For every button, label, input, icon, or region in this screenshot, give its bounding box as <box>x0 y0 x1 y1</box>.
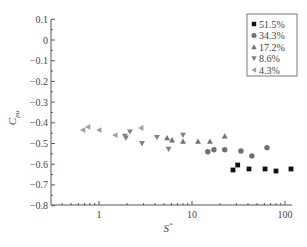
data-point-triangle-down <box>166 147 172 152</box>
data-point-triangle-up <box>169 137 175 142</box>
data-point-square <box>247 167 252 172</box>
data-point-triangle-up <box>222 133 228 138</box>
data-point-circle <box>238 148 243 153</box>
data-point-triangle-down <box>127 130 133 135</box>
y-tick-label: 0.1 <box>36 14 49 25</box>
x-tick-label: 10 <box>187 209 197 220</box>
y-tick-label: −0.2 <box>30 76 48 87</box>
data-point-triangle-down <box>180 133 186 138</box>
data-point-triangle-up <box>164 135 170 140</box>
data-point-circle <box>222 147 227 152</box>
x-tick-label: 1 <box>97 209 102 220</box>
x-tick-label: 100 <box>278 209 293 220</box>
data-point-triangle-left <box>85 124 90 130</box>
data-point-triangle-up <box>180 139 186 144</box>
legend-label: 51.5% <box>259 19 285 30</box>
data-point-circle <box>249 153 254 158</box>
y-tick-label: −0.3 <box>30 97 48 108</box>
legend-marker-circle <box>252 33 257 38</box>
legend-label: 8.6% <box>259 53 280 64</box>
y-tick-label: −0.6 <box>30 159 48 170</box>
data-point-square <box>231 168 236 173</box>
y-tick-label: −0.4 <box>30 117 48 128</box>
data-point-square <box>263 167 268 172</box>
data-point-triangle-down <box>154 135 160 140</box>
y-tick-label: −0.8 <box>30 200 48 211</box>
legend-marker-square <box>252 22 256 26</box>
y-tick-label: −0.7 <box>30 179 48 190</box>
data-point-triangle-down <box>123 136 129 141</box>
legend-label: 4.3% <box>259 65 280 76</box>
data-points <box>80 124 293 173</box>
data-point-triangle-left <box>112 132 117 138</box>
data-point-triangle-left <box>96 127 101 133</box>
data-point-circle <box>205 149 210 154</box>
data-point-square <box>289 167 294 172</box>
x-axis-title: S* <box>164 221 174 234</box>
data-point-circle <box>264 145 269 150</box>
legend-label: 34.3% <box>259 30 285 41</box>
data-point-square <box>274 169 279 174</box>
data-point-circle <box>211 147 216 152</box>
legend-label: 17.2% <box>259 42 285 53</box>
y-tick-label: −0.5 <box>30 138 48 149</box>
y-axis-title: Cpu <box>6 110 21 125</box>
y-tick-label: −0.1 <box>30 55 48 66</box>
y-tick-label: 0 <box>43 35 48 46</box>
scatter-chart: 0.10−0.1−0.2−0.3−0.4−0.5−0.6−0.7−0.81101… <box>0 0 307 247</box>
legend: 51.5%34.3%17.2%8.6%4.3% <box>247 14 297 76</box>
data-point-triangle-left <box>80 127 85 133</box>
data-point-triangle-up <box>195 139 201 144</box>
data-point-square <box>235 163 240 168</box>
data-point-triangle-up <box>207 139 213 144</box>
data-point-triangle-left <box>138 125 143 131</box>
data-point-triangle-down <box>139 141 145 146</box>
